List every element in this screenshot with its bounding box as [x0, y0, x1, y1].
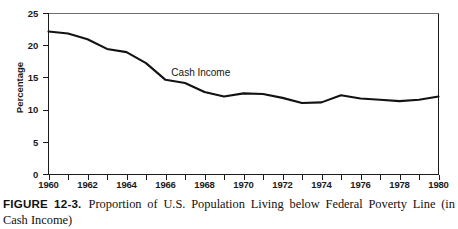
series-annotation-cash-income: Cash Income	[171, 67, 230, 78]
figure-number-label: FIGURE 12-3.	[3, 197, 82, 210]
line-chart-svg	[0, 0, 458, 190]
x-tick-label-1976: 1976	[344, 179, 378, 190]
figure-container: 25 20 15 10 5 0 Percentage 1960196219641…	[0, 0, 458, 229]
x-tick-label-1964: 1964	[110, 179, 144, 190]
cash-income-line	[49, 32, 439, 103]
y-tick-label-5: 5	[16, 137, 38, 148]
x-tick-label-1980: 1980	[422, 179, 456, 190]
x-tick-label-1960: 1960	[32, 179, 66, 190]
y-tick-marks	[43, 14, 49, 175]
x-tick-label-1962: 1962	[71, 179, 105, 190]
x-tick-label-1972: 1972	[266, 179, 300, 190]
x-tick-label-1966: 1966	[149, 179, 183, 190]
chart-area: 25 20 15 10 5 0 Percentage 1960196219641…	[0, 0, 458, 190]
y-tick-label-25: 25	[16, 8, 38, 19]
x-tick-label-1978: 1978	[383, 179, 417, 190]
x-tick-label-1970: 1970	[227, 179, 261, 190]
x-tick-label-1974: 1974	[305, 179, 339, 190]
x-tick-label-1968: 1968	[188, 179, 222, 190]
figure-caption: FIGURE 12-3.Proportion of U.S. Populatio…	[3, 196, 455, 228]
y-axis-title: Percentage	[14, 48, 25, 128]
